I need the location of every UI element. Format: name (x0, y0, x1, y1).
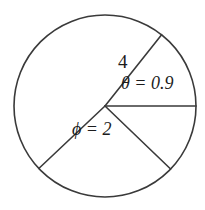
circle-sector-figure: 4 θ = 0.9 ϕ = 2 (0, 0, 205, 210)
radius-line-lower-right (105, 106, 171, 169)
radius-label: 4 (118, 52, 128, 71)
radius-line-theta (105, 35, 162, 106)
phi-angle-label: ϕ = 2 (72, 120, 111, 138)
figure-svg (0, 0, 205, 210)
theta-angle-label: θ = 0.9 (121, 74, 174, 92)
